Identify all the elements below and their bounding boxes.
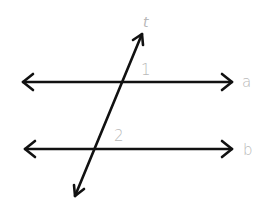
angle-label-1: 1 bbox=[141, 61, 151, 79]
line-a bbox=[23, 74, 232, 90]
label-b: b bbox=[243, 141, 253, 159]
line-b bbox=[25, 141, 232, 157]
label-a: a bbox=[242, 73, 251, 91]
angle-label-2: 2 bbox=[114, 127, 124, 145]
label-t: t bbox=[143, 14, 149, 30]
diagram-canvas: t a b 1 2 bbox=[0, 0, 264, 206]
line-t bbox=[74, 34, 143, 196]
